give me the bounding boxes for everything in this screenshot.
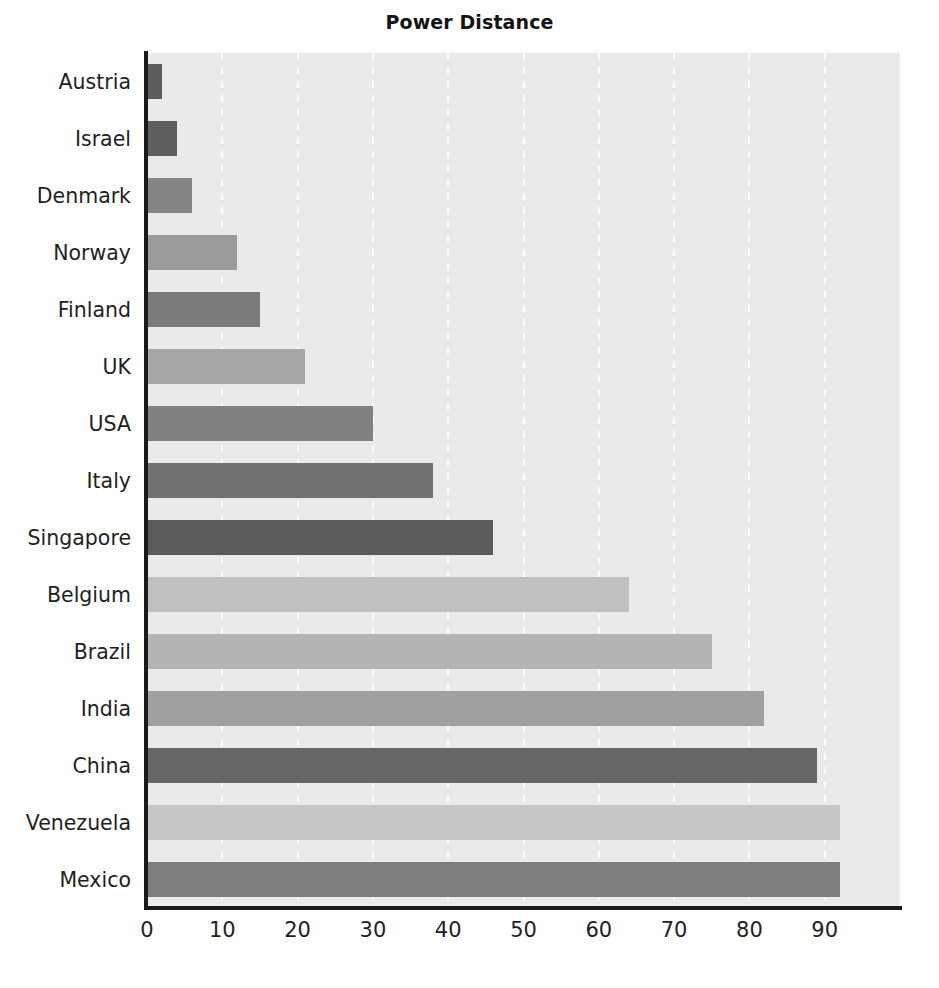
y-label-denmark: Denmark bbox=[0, 182, 138, 210]
bar-row bbox=[147, 805, 900, 839]
bar-row bbox=[147, 406, 900, 440]
bar-row bbox=[147, 64, 900, 98]
bar-row bbox=[147, 178, 900, 212]
x-tick-label-50: 50 bbox=[510, 918, 537, 942]
bar-venezuela[interactable] bbox=[147, 805, 840, 839]
bar-row bbox=[147, 235, 900, 269]
y-label-singapore: Singapore bbox=[0, 524, 138, 552]
bar-italy[interactable] bbox=[147, 463, 433, 497]
x-tick-label-90: 90 bbox=[811, 918, 838, 942]
y-label-venezuela: Venezuela bbox=[0, 809, 138, 837]
bar-denmark[interactable] bbox=[147, 178, 192, 212]
y-axis-category-labels: AustriaIsraelDenmarkNorwayFinlandUKUSAIt… bbox=[0, 53, 138, 908]
chart-figure: Power Distance AustriaIsraelDenmarkNorwa… bbox=[0, 0, 939, 988]
bar-mexico[interactable] bbox=[147, 862, 840, 896]
bar-row bbox=[147, 292, 900, 326]
bar-row bbox=[147, 691, 900, 725]
y-label-belgium: Belgium bbox=[0, 581, 138, 609]
bar-row bbox=[147, 121, 900, 155]
y-label-austria: Austria bbox=[0, 68, 138, 96]
bar-china[interactable] bbox=[147, 748, 817, 782]
bar-finland[interactable] bbox=[147, 292, 260, 326]
y-label-israel: Israel bbox=[0, 125, 138, 153]
bar-row bbox=[147, 349, 900, 383]
bar-row bbox=[147, 463, 900, 497]
bar-belgium[interactable] bbox=[147, 577, 629, 611]
bar-row bbox=[147, 862, 900, 896]
bar-singapore[interactable] bbox=[147, 520, 493, 554]
y-label-brazil: Brazil bbox=[0, 638, 138, 666]
y-label-finland: Finland bbox=[0, 296, 138, 324]
bar-row bbox=[147, 748, 900, 782]
bar-austria[interactable] bbox=[147, 64, 162, 98]
y-label-italy: Italy bbox=[0, 467, 138, 495]
y-label-mexico: Mexico bbox=[0, 866, 138, 894]
bar-series bbox=[147, 53, 900, 908]
x-tick-label-0: 0 bbox=[140, 918, 153, 942]
y-label-usa: USA bbox=[0, 410, 138, 438]
bar-row bbox=[147, 634, 900, 668]
x-tick-label-70: 70 bbox=[661, 918, 688, 942]
bar-row bbox=[147, 577, 900, 611]
x-axis-tick-labels: 0102030405060708090 bbox=[0, 918, 939, 952]
y-label-uk: UK bbox=[0, 353, 138, 381]
x-tick-label-10: 10 bbox=[209, 918, 236, 942]
plot-area bbox=[147, 53, 900, 908]
bar-uk[interactable] bbox=[147, 349, 305, 383]
bar-india[interactable] bbox=[147, 691, 764, 725]
x-tick-label-80: 80 bbox=[736, 918, 763, 942]
y-axis-line bbox=[144, 51, 148, 910]
x-axis-line bbox=[144, 906, 902, 910]
bar-usa[interactable] bbox=[147, 406, 373, 440]
y-label-china: China bbox=[0, 752, 138, 780]
y-label-india: India bbox=[0, 695, 138, 723]
x-tick-label-60: 60 bbox=[585, 918, 612, 942]
bar-israel[interactable] bbox=[147, 121, 177, 155]
bar-row bbox=[147, 520, 900, 554]
x-tick-label-40: 40 bbox=[435, 918, 462, 942]
chart-title: Power Distance bbox=[0, 11, 939, 33]
bar-norway[interactable] bbox=[147, 235, 237, 269]
x-tick-label-30: 30 bbox=[360, 918, 387, 942]
bar-brazil[interactable] bbox=[147, 634, 712, 668]
y-label-norway: Norway bbox=[0, 239, 138, 267]
x-tick-label-20: 20 bbox=[284, 918, 311, 942]
